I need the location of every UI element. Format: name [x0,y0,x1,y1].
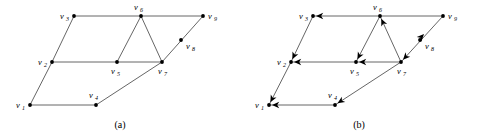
node-label-v7: v [158,66,162,76]
node-label-v8: v [425,41,429,51]
node-sublabel-v2: 2 [44,62,47,68]
node-sublabel-v5: 5 [356,71,359,77]
node-label-v2: v [277,57,281,67]
node-sublabel-v4: 4 [95,95,98,101]
node-v8[interactable] [418,38,422,42]
node-label-v4: v [328,90,332,100]
node-sublabel-v9: 9 [214,16,217,22]
edge-v5-v6 [117,16,141,62]
node-label-v3: v [60,11,64,21]
node-sublabel-v4: 4 [334,95,337,101]
node-v9[interactable] [441,14,445,18]
edge-v4-v7 [96,62,162,105]
node-label-v9: v [448,11,452,21]
node-sublabel-v3: 3 [65,16,69,22]
node-label-v9: v [208,11,212,21]
node-v5[interactable] [354,60,358,64]
node-sublabel-v8: 8 [431,46,434,52]
panel-b: v1v2v3v4v5v6v7v8v9(b) [255,2,457,131]
node-v5[interactable] [115,60,119,64]
arrowhead-v3-to-v2 [289,51,298,60]
node-sublabel-v5: 5 [117,71,120,77]
node-label-v1: v [16,100,20,110]
node-sublabel-v1: 1 [261,105,264,111]
graph-figure-svg: v1v2v3v4v5v6v7v8v9(a) v1v2v3v4v5v6v7v8v9… [0,0,478,139]
edge-v7-v4 [335,62,401,105]
node-sublabel-v7: 7 [403,71,407,77]
node-label-v7: v [397,66,401,76]
node-label-v2: v [38,57,42,67]
node-sublabel-v8: 8 [192,46,195,52]
node-v7[interactable] [160,60,164,64]
node-v8[interactable] [179,38,183,42]
arrowhead-v6-to-v5 [355,51,364,60]
arrowhead-v7-to-v6 [378,17,387,26]
node-sublabel-v2: 2 [283,62,286,68]
node-label-v3: v [299,11,303,21]
node-v1[interactable] [28,103,32,107]
node-v6[interactable] [378,14,382,18]
node-label-v5: v [111,66,115,76]
node-v3[interactable] [72,14,76,18]
node-label-v8: v [186,41,190,51]
node-v2[interactable] [50,60,54,64]
node-sublabel-v9: 9 [454,16,457,22]
node-v2[interactable] [289,60,293,64]
edge-v2-v3 [52,16,74,62]
panel-caption-panel-b: (b) [353,119,365,131]
node-label-v5: v [350,66,354,76]
edge-v6-v7 [141,16,162,62]
node-sublabel-v7: 7 [164,71,168,77]
node-v1[interactable] [267,103,271,107]
arrowhead-v7-to-v4 [336,97,346,106]
node-sublabel-v3: 3 [304,16,308,22]
node-label-v6: v [373,2,377,12]
node-v4[interactable] [94,103,98,107]
arrowhead-v2-to-v1 [268,94,277,103]
node-sublabel-v1: 1 [22,105,25,111]
node-sublabel-v6: 6 [379,7,382,13]
node-sublabel-v6: 6 [140,7,143,13]
node-v7[interactable] [399,60,403,64]
node-v9[interactable] [201,14,205,18]
edge-v1-v2 [30,62,52,105]
node-v3[interactable] [311,14,315,18]
node-v4[interactable] [333,103,337,107]
node-v6[interactable] [139,14,143,18]
node-label-v6: v [134,2,138,12]
panel-caption-panel-a: (a) [114,119,125,131]
panel-a: v1v2v3v4v5v6v7v8v9(a) [16,2,217,131]
node-label-v4: v [89,90,93,100]
node-label-v1: v [255,100,259,110]
figure-root: v1v2v3v4v5v6v7v8v9(a) v1v2v3v4v5v6v7v8v9… [0,0,478,139]
